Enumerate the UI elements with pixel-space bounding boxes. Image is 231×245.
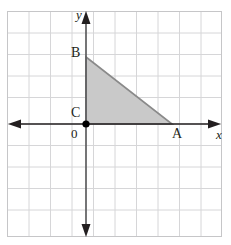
graph-canvas <box>0 0 231 245</box>
origin-label: 0 <box>71 127 78 140</box>
origin-point <box>82 120 89 127</box>
vertex-label-b: B <box>71 46 80 60</box>
vertex-label-a: A <box>172 127 182 141</box>
x-axis-label: x <box>216 128 222 141</box>
y-axis-label: y <box>76 8 82 21</box>
vertex-label-c: C <box>71 106 80 120</box>
coordinate-grid-figure: B C 0 A y x <box>0 0 231 245</box>
